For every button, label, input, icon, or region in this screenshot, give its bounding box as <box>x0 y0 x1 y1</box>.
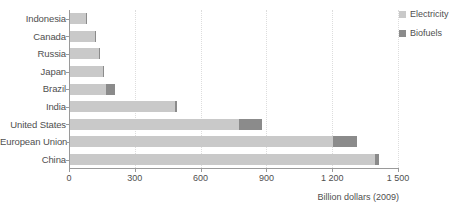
bar-segment-electricity <box>70 84 106 95</box>
x-tick-mark <box>201 169 202 172</box>
plot-area <box>69 10 398 168</box>
category-label: India <box>0 98 66 116</box>
y-tick-mark <box>66 54 69 55</box>
x-tick-mark <box>266 169 267 172</box>
x-tick-label: 0 <box>66 173 71 183</box>
bar-chart: IndonesiaCanadaRussiaJapanBrazilIndiaUni… <box>0 0 461 211</box>
bar-segment-electricity <box>70 101 175 112</box>
x-tick-label: 600 <box>193 173 208 183</box>
chart-legend: ElectricityBiofuels <box>399 9 449 47</box>
x-tick-mark <box>135 169 136 172</box>
legend-label: Electricity <box>410 9 449 19</box>
legend-swatch-icon <box>399 11 406 18</box>
x-tick-mark <box>332 169 333 172</box>
bar-segment-biofuels <box>375 154 379 165</box>
bar-segment-electricity <box>70 31 95 42</box>
y-tick-mark <box>66 19 69 20</box>
y-tick-mark <box>66 89 69 90</box>
bar-segment-biofuels <box>106 84 115 95</box>
y-tick-mark <box>66 107 69 108</box>
x-tick-mark <box>69 169 70 172</box>
category-label: China <box>0 151 66 169</box>
x-tick-label: 900 <box>259 173 274 183</box>
bar-segment-biofuels <box>103 66 104 77</box>
category-label: Russia <box>0 45 66 63</box>
bar-segment-electricity <box>70 48 99 59</box>
bar-segment-biofuels <box>239 119 262 130</box>
legend-item[interactable]: Biofuels <box>399 28 449 38</box>
x-axis-ticks: 03006009001 2001 500 <box>69 169 399 183</box>
category-label: Indonesia <box>0 10 66 28</box>
y-tick-mark <box>66 124 69 125</box>
bar-segment-biofuels <box>86 13 87 24</box>
x-tick-mark <box>398 169 399 172</box>
category-label: Brazil <box>0 80 66 98</box>
y-tick-mark <box>66 72 69 73</box>
bar-segment-electricity <box>70 66 103 77</box>
x-tick-label: 1 500 <box>387 173 410 183</box>
legend-item[interactable]: Electricity <box>399 9 449 19</box>
legend-swatch-icon <box>399 30 406 37</box>
x-tick-label: 1 200 <box>321 173 344 183</box>
x-axis-title: Billion dollars (2009) <box>317 192 399 202</box>
x-tick-label: 300 <box>127 173 142 183</box>
bar-segment-electricity <box>70 136 333 147</box>
bar-segment-biofuels <box>175 101 177 112</box>
category-label: Canada <box>0 28 66 46</box>
bar-segment-biofuels <box>95 31 97 42</box>
category-label: Japan <box>0 63 66 81</box>
bar-segment-electricity <box>70 119 239 130</box>
legend-label: Biofuels <box>410 28 442 38</box>
category-label: United States <box>0 116 66 134</box>
bar-segment-electricity <box>70 13 86 24</box>
y-tick-mark <box>66 160 69 161</box>
y-tick-mark <box>66 36 69 37</box>
y-tick-mark <box>66 142 69 143</box>
bar-segment-biofuels <box>99 48 100 59</box>
category-axis-labels: IndonesiaCanadaRussiaJapanBrazilIndiaUni… <box>0 10 66 168</box>
bar-segment-electricity <box>70 154 375 165</box>
category-label: European Union <box>0 133 66 151</box>
bar-segment-biofuels <box>333 136 357 147</box>
